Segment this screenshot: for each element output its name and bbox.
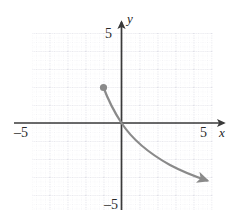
x-axis-tick-5: 5 — [200, 126, 207, 140]
y-axis-label: y — [127, 12, 133, 25]
x-axis-label: x — [219, 126, 225, 139]
curve-endpoint-dot — [100, 84, 107, 91]
y-axis-tick-negative-5: –5 — [104, 198, 118, 212]
x-axis-tick-negative-5: –5 — [14, 126, 28, 140]
grid-layer — [33, 33, 213, 210]
graph-figure: 5 –5 5 –5 y x — [0, 0, 235, 217]
major-gridlines — [33, 33, 213, 210]
y-axis-tick-5: 5 — [105, 27, 112, 41]
plot-canvas — [0, 0, 235, 217]
